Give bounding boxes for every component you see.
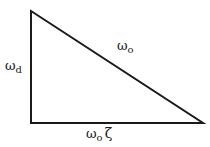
right-triangle: [31, 11, 203, 123]
horizontal-side-label-subscript: o: [97, 132, 103, 143]
triangle-diagram: ωo ωd ωoζ: [0, 0, 210, 147]
horizontal-side-label-symbol: ω: [86, 126, 97, 141]
hypotenuse-label: ωo: [117, 38, 134, 55]
vertical-side-label-symbol: ω: [5, 58, 16, 73]
horizontal-side-label: ωoζ: [86, 125, 113, 143]
horizontal-side-label-zeta: ζ: [105, 125, 113, 141]
hypotenuse-label-symbol: ω: [117, 38, 128, 53]
vertical-side-label-subscript: d: [16, 64, 23, 75]
hypotenuse-label-subscript: o: [128, 44, 134, 55]
vertical-side-label: ωd: [5, 58, 23, 75]
